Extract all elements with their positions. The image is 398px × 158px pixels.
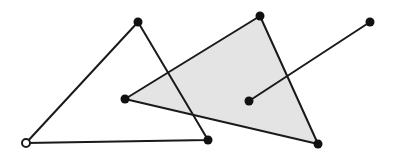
geometry-diagram	[0, 0, 398, 158]
outline-triangle-bottom-right-point	[204, 136, 213, 145]
outline-triangle-apex-point	[134, 18, 143, 27]
outline-triangle-bottom-left-point	[22, 139, 30, 147]
shaded-triangle-bottom-point	[314, 140, 323, 149]
segment-exterior-endpoint-point	[366, 18, 375, 27]
shaded-triangle	[125, 16, 318, 144]
segment-interior-endpoint-point	[245, 97, 254, 106]
shaded-triangle-top-point	[256, 12, 265, 21]
shaded-triangle-left-point	[121, 95, 130, 104]
